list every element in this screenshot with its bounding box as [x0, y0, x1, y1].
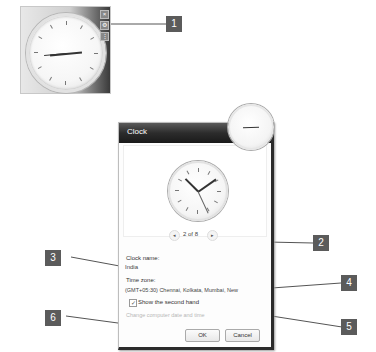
next-clock-button[interactable]: ▸ — [207, 230, 218, 241]
clock-tick — [214, 201, 218, 204]
callout-5: 5 — [341, 319, 357, 335]
clock-tick — [34, 52, 38, 53]
clock-tick — [197, 210, 198, 214]
clock-gadget[interactable]: × ⚙ ⋮ — [20, 6, 111, 94]
pager-text: 2 of 8 — [183, 231, 198, 237]
clock-tick — [198, 168, 199, 172]
clock-name-input[interactable]: India — [123, 262, 263, 272]
dialog-title: Clock — [127, 127, 147, 136]
time-zone-label: Time zone: — [126, 277, 155, 283]
callout-1: 1 — [166, 16, 182, 32]
callout-4: 4 — [341, 275, 357, 291]
titlebar-clock-icon — [228, 104, 274, 150]
close-icon[interactable]: × — [100, 10, 109, 19]
clock-tick — [79, 77, 82, 81]
title-clock-hand — [243, 127, 259, 129]
change-date-time-link[interactable]: Change computer date and time — [126, 312, 205, 318]
options-icon[interactable]: ⚙ — [100, 21, 109, 30]
clock-tick — [94, 53, 98, 54]
gadget-controls: × ⚙ ⋮ — [100, 10, 108, 43]
preview-clock-face — [168, 161, 228, 221]
callout-6: 6 — [45, 310, 61, 326]
clock-tick — [178, 200, 182, 203]
clock-tick — [80, 25, 83, 29]
callout-3: 3 — [45, 250, 61, 266]
second-hand-label: Show the second hand — [138, 299, 199, 305]
callout-2: 2 — [313, 235, 329, 251]
clock-tick — [65, 81, 66, 85]
clock-tick — [186, 207, 189, 211]
clock-preview — [123, 145, 267, 237]
clock-tick — [49, 77, 52, 81]
clock-tick — [38, 66, 42, 69]
time-zone-select[interactable]: (GMT+05:30) Chennai, Kolkata, Mumbai, Ne… — [123, 285, 263, 295]
preview-hour-hand — [185, 178, 199, 192]
clock-tick — [178, 179, 182, 182]
cancel-button[interactable]: Cancel — [225, 329, 260, 342]
drag-handle-icon[interactable]: ⋮ — [100, 32, 109, 41]
clock-tick — [175, 190, 179, 191]
clock-tick — [66, 21, 67, 25]
clock-tick — [90, 67, 94, 70]
clock-tick — [214, 180, 218, 183]
clock-settings-dialog: Clock ◂ 2 of 8 ▸ Clock name: India Time … — [118, 122, 274, 350]
clock-tick — [217, 191, 221, 192]
ok-button[interactable]: OK — [185, 329, 220, 342]
previous-clock-button[interactable]: ◂ — [169, 230, 180, 241]
clock-tick — [50, 25, 53, 29]
clock-tick — [38, 36, 42, 39]
second-hand-checkbox[interactable]: ✓ — [129, 299, 137, 307]
clock-tick — [90, 37, 94, 40]
clock-tick — [187, 171, 190, 175]
clock-name-label: Clock name: — [126, 255, 159, 261]
gadget-clock-face — [26, 13, 106, 93]
clock-pager: ◂ 2 of 8 ▸ — [123, 227, 265, 243]
clock-tick — [208, 171, 211, 175]
